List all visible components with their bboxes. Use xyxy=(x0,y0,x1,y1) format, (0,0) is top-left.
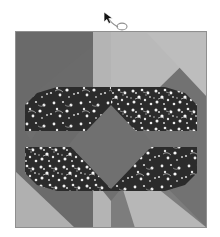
lasso-loop-icon xyxy=(117,23,127,30)
pointer-arrow-icon[interactable] xyxy=(104,12,112,24)
artwork-svg xyxy=(15,31,207,228)
tessellated-square-figure xyxy=(15,31,207,228)
cursor-trail-line xyxy=(107,16,118,27)
screenshot-canvas xyxy=(0,0,220,237)
